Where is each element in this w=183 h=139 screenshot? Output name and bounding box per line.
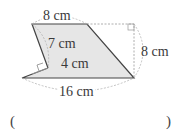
answer-open-paren: (	[10, 113, 15, 130]
label-inner: 4 cm	[61, 57, 89, 71]
label-right-height: 8 cm	[141, 45, 169, 59]
label-bottom: 16 cm	[58, 85, 95, 99]
label-left-slant: 7 cm	[48, 37, 76, 51]
right-angle-marker-top	[128, 24, 134, 30]
label-top: 8 cm	[42, 9, 72, 23]
answer-close-paren: )	[166, 113, 171, 130]
answer-blank[interactable]	[24, 113, 164, 131]
